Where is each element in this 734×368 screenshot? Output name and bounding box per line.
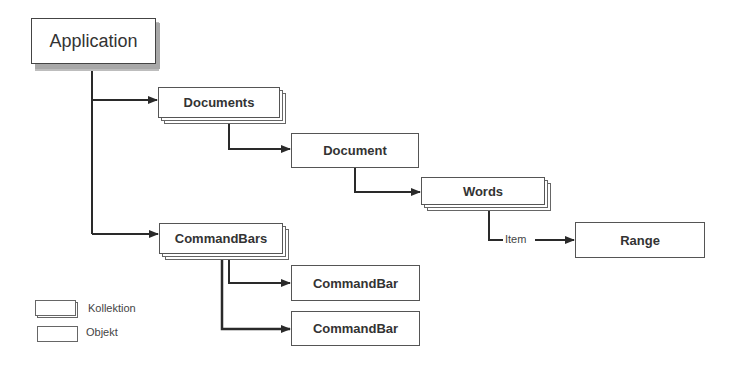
range-node[interactable]: Range: [575, 222, 705, 258]
application-node[interactable]: Application: [31, 18, 156, 64]
commandbars-node[interactable]: CommandBars: [159, 223, 283, 254]
words-label: Words: [463, 184, 503, 199]
document-node[interactable]: Document: [291, 133, 419, 168]
commandbars-label: CommandBars: [175, 231, 267, 246]
commandbar-node-1[interactable]: CommandBar: [291, 265, 420, 301]
legend-object-label: Objekt: [86, 326, 118, 338]
edge-label-item: Item: [503, 233, 528, 245]
legend-collection-swatch: [35, 300, 76, 316]
document-label: Document: [323, 143, 387, 158]
commandbar-label-1: CommandBar: [313, 276, 398, 291]
documents-node[interactable]: Documents: [158, 87, 280, 118]
documents-label: Documents: [184, 95, 255, 110]
legend-collection-label: Kollektion: [88, 302, 136, 314]
application-box-shadow: [35, 63, 159, 71]
commandbar-node-2[interactable]: CommandBar: [291, 311, 420, 346]
commandbar-label-2: CommandBar: [313, 321, 398, 336]
legend-object-swatch: [37, 326, 78, 342]
application-label: Application: [49, 31, 137, 52]
range-label: Range: [620, 233, 660, 248]
words-node[interactable]: Words: [421, 177, 545, 205]
